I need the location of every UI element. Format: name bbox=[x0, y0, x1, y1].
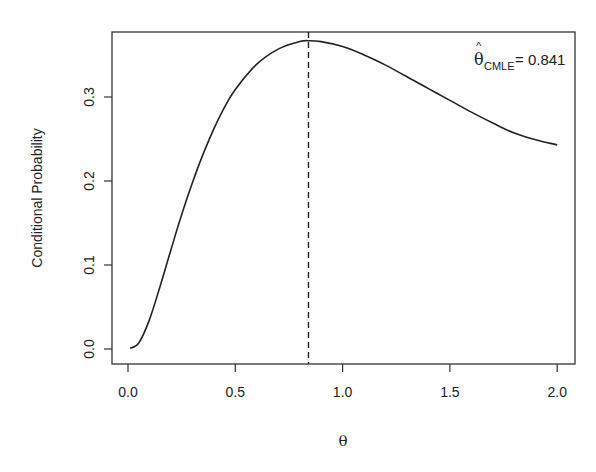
x-axis: 0.00.51.01.52.0 bbox=[118, 364, 567, 400]
y-tick-label: 0.1 bbox=[81, 255, 97, 275]
y-axis-title: Conditional Probability bbox=[29, 128, 45, 267]
probability-curve bbox=[130, 41, 557, 349]
mle-annotation: ^ θ CMLE = 0.841 bbox=[474, 40, 565, 72]
theta-symbol: θ bbox=[474, 50, 484, 69]
cmle-subscript: CMLE bbox=[484, 60, 515, 72]
plot-frame bbox=[112, 32, 575, 364]
x-tick-label: 0.0 bbox=[118, 384, 138, 400]
mle-value: = 0.841 bbox=[515, 51, 565, 68]
x-tick-label: 1.5 bbox=[440, 384, 460, 400]
x-axis-title: θ bbox=[338, 432, 347, 450]
x-tick-label: 0.5 bbox=[226, 384, 246, 400]
x-tick-label: 2.0 bbox=[547, 384, 567, 400]
y-axis: 0.00.10.20.3 bbox=[81, 87, 112, 359]
y-tick-label: 0.2 bbox=[81, 171, 97, 191]
x-tick-label: 1.0 bbox=[333, 384, 353, 400]
y-tick-label: 0.3 bbox=[81, 87, 97, 107]
y-tick-label: 0.0 bbox=[81, 339, 97, 359]
chart: 0.00.51.01.52.0 0.00.10.20.3 ^ θ CMLE = … bbox=[0, 0, 596, 472]
